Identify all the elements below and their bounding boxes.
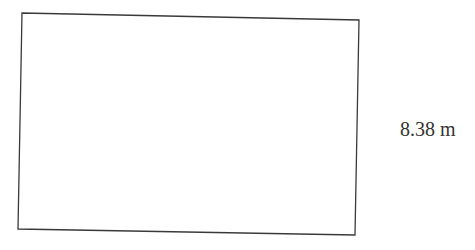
- side-length-label: 8.38 m: [400, 118, 456, 141]
- rectangle-shape: [18, 13, 359, 235]
